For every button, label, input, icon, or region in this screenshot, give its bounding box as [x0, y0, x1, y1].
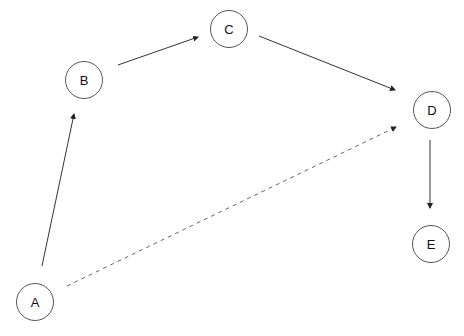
node-a[interactable]: A	[17, 284, 54, 321]
graph-diagram: A B C D E	[0, 0, 464, 336]
node-c[interactable]: C	[211, 11, 248, 48]
node-a-label: A	[31, 295, 40, 310]
node-e[interactable]: E	[413, 226, 450, 263]
node-b-label: B	[80, 73, 89, 88]
edge-a-b	[42, 114, 74, 266]
edge-b-c	[118, 37, 198, 65]
node-e-label: E	[427, 237, 436, 252]
node-b[interactable]: B	[66, 62, 103, 99]
edge-a-d	[67, 127, 396, 286]
node-c-label: C	[224, 22, 233, 37]
node-d[interactable]: D	[414, 92, 451, 129]
edge-c-d	[259, 36, 395, 90]
node-d-label: D	[427, 103, 436, 118]
